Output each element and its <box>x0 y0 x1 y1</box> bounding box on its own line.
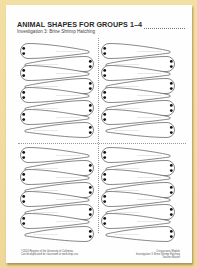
shrimp-outline <box>25 227 94 242</box>
shrimp-outline <box>106 123 175 138</box>
eye-dot <box>22 69 25 72</box>
eye-dot <box>170 82 173 85</box>
eye-dot <box>22 91 25 94</box>
eye-dot <box>22 178 25 181</box>
eye-dot <box>103 91 106 94</box>
shrimp-outline <box>102 44 171 59</box>
animal-shapes-layer <box>0 0 197 268</box>
footer-copyright: ©2024 Regents of the University of Calif… <box>21 250 79 256</box>
shrimp-outline <box>102 148 171 163</box>
eye-dot <box>89 109 92 112</box>
shrimp-shape-left-facing <box>102 44 171 59</box>
eye-dot <box>22 96 25 99</box>
eye-dot <box>22 74 25 77</box>
shrimp-shape-right-facing <box>106 227 175 242</box>
eye-dot <box>170 131 173 134</box>
eye-dot <box>22 200 25 203</box>
eye-dot <box>22 217 25 220</box>
eye-dot <box>89 230 92 233</box>
eye-dot <box>103 96 106 99</box>
eye-dot <box>103 200 106 203</box>
eye-dot <box>170 191 173 194</box>
eye-dot <box>22 113 25 116</box>
eye-dot <box>103 151 106 154</box>
eye-dot <box>22 195 25 198</box>
shrimp-outline <box>106 227 175 242</box>
eye-dot <box>103 52 106 55</box>
shrimp-shape-left-facing <box>102 148 171 163</box>
shrimp-outline <box>21 148 90 163</box>
eye-dot <box>89 104 92 107</box>
eye-dot <box>89 87 92 90</box>
eye-dot <box>103 156 106 159</box>
footer-module-info: Crustaceans Module Investigation 3: Brin… <box>136 250 180 260</box>
eye-dot <box>170 230 173 233</box>
eye-dot <box>103 217 106 220</box>
eye-dot <box>103 69 106 72</box>
shrimp-shape-left-facing <box>21 148 90 163</box>
eye-dot <box>103 74 106 77</box>
eye-dot <box>170 126 173 129</box>
eye-dot <box>170 208 173 211</box>
eye-dot <box>103 178 106 181</box>
footer-right-line: Teacher Master <box>136 256 180 259</box>
shrimp-shape-right-facing <box>25 123 94 138</box>
shrimp-shape-right-facing <box>106 123 175 138</box>
eye-dot <box>103 47 106 50</box>
eye-dot <box>170 65 173 68</box>
eye-dot <box>89 82 92 85</box>
eye-dot <box>89 213 92 216</box>
eye-dot <box>89 208 92 211</box>
eye-dot <box>170 87 173 90</box>
eye-dot <box>170 60 173 63</box>
eye-dot <box>89 186 92 189</box>
eye-dot <box>89 126 92 129</box>
eye-dot <box>170 213 173 216</box>
eye-dot <box>22 52 25 55</box>
eye-dot <box>22 173 25 176</box>
shrimp-shape-left-facing <box>21 44 90 59</box>
footer-left-line: Can be duplicated for classroom or works… <box>21 253 79 256</box>
eye-dot <box>89 169 92 172</box>
eye-dot <box>170 186 173 189</box>
shrimp-outline <box>21 44 90 59</box>
eye-dot <box>89 235 92 238</box>
eye-dot <box>22 118 25 121</box>
shrimp-outline <box>25 123 94 138</box>
eye-dot <box>89 65 92 68</box>
eye-dot <box>170 109 173 112</box>
eye-dot <box>103 118 106 121</box>
eye-dot <box>89 191 92 194</box>
eye-dot <box>89 60 92 63</box>
eye-dot <box>170 104 173 107</box>
eye-dot <box>22 47 25 50</box>
eye-dot <box>103 113 106 116</box>
eye-dot <box>170 164 173 167</box>
eye-dot <box>170 169 173 172</box>
eye-dot <box>22 222 25 225</box>
eye-dot <box>103 173 106 176</box>
eye-dot <box>103 222 106 225</box>
shrimp-shape-right-facing <box>25 227 94 242</box>
eye-dot <box>89 131 92 134</box>
eye-dot <box>22 151 25 154</box>
eye-dot <box>22 156 25 159</box>
eye-dot <box>170 235 173 238</box>
eye-dot <box>103 195 106 198</box>
eye-dot <box>89 164 92 167</box>
